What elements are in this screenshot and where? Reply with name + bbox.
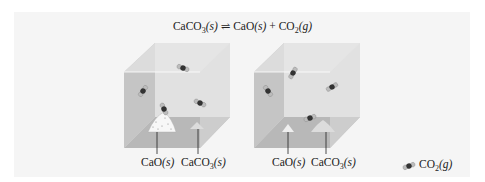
label-right-caco3: CaCO3(s) <box>311 156 356 171</box>
label-right-cao: CaO(s) <box>272 156 305 168</box>
container-left <box>124 43 230 154</box>
label-left-cao: CaO(s) <box>141 156 174 168</box>
diagram-art <box>0 0 485 182</box>
co2-molecule-icon <box>402 161 416 170</box>
label-left-caco3: CaCO3(s) <box>181 156 226 171</box>
container-right <box>254 43 360 154</box>
legend-label: CO2(g) <box>419 158 452 173</box>
